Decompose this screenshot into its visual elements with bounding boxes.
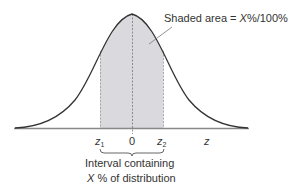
interval-caption-line2: X % of distribution (86, 172, 176, 184)
normal-distribution-diagram: Shaded area = X%/100% z1 0 z2 z Interval… (0, 0, 303, 190)
interval-brace (100, 149, 164, 156)
z1-label: z1 (94, 135, 105, 148)
shaded-area (15, 14, 248, 128)
z-axis-label: z (203, 135, 210, 147)
zero-label: 0 (129, 135, 135, 147)
z2-label: z2 (156, 135, 167, 148)
interval-caption-line1: Interval containing (85, 157, 174, 169)
shaded-area-annotation: Shaded area = X%/100% (164, 12, 288, 24)
